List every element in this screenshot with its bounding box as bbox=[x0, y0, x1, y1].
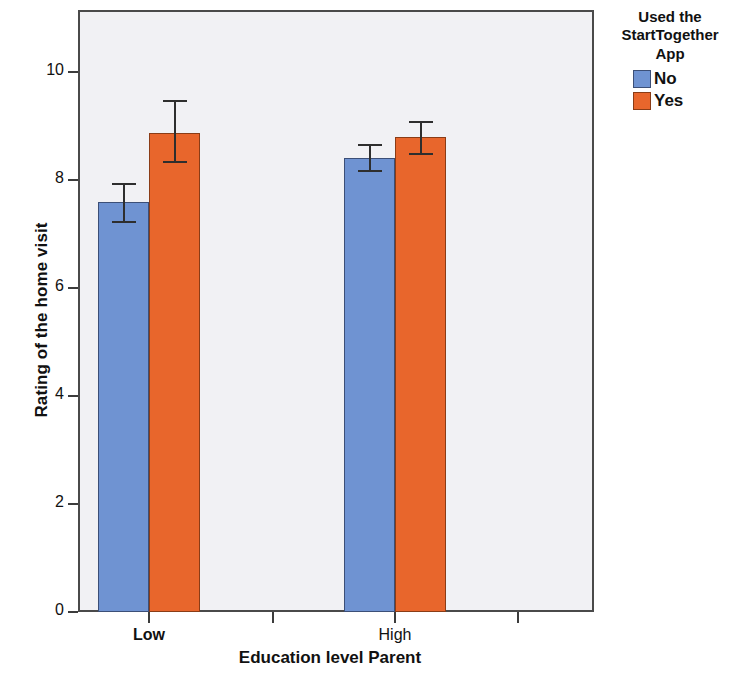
legend-title-line-1: Used the bbox=[600, 8, 740, 26]
error-bar-cap-upper bbox=[163, 100, 187, 102]
y-tick-label: 8 bbox=[18, 169, 64, 187]
x-tick-mark bbox=[272, 612, 274, 623]
error-bar-cap-upper bbox=[112, 183, 136, 185]
bar-chart-figure: Rating of the home visit 1086420 LowHigh… bbox=[0, 0, 745, 680]
y-tick-label: 6 bbox=[18, 277, 64, 295]
bar-high-yes bbox=[395, 137, 446, 612]
error-bar-cap-upper bbox=[358, 144, 382, 146]
error-bar-cap-lower bbox=[163, 161, 187, 163]
legend-item-no[interactable]: No bbox=[633, 70, 740, 88]
y-tick-mark bbox=[68, 287, 78, 289]
legend-swatch-icon bbox=[633, 70, 651, 88]
x-tick-label: Low bbox=[89, 626, 209, 644]
y-axis-title: Rating of the home visit bbox=[32, 160, 52, 480]
y-tick-label: 4 bbox=[18, 385, 64, 403]
y-tick-mark bbox=[68, 503, 78, 505]
y-tick-mark bbox=[68, 71, 78, 73]
error-bar-stem bbox=[174, 100, 176, 161]
x-tick-mark bbox=[517, 612, 519, 623]
error-bar-cap-lower bbox=[112, 221, 136, 223]
x-tick-mark bbox=[148, 612, 150, 623]
error-bar-stem bbox=[369, 144, 371, 170]
y-tick-label: 10 bbox=[18, 61, 64, 79]
error-bar-cap-lower bbox=[409, 153, 433, 155]
y-tick-mark bbox=[68, 179, 78, 181]
error-bar-stem bbox=[123, 183, 125, 221]
y-tick-mark bbox=[68, 395, 78, 397]
legend-item-label: No bbox=[654, 70, 677, 87]
legend-title-line-3: App bbox=[600, 45, 740, 63]
y-tick-label: 0 bbox=[18, 601, 64, 619]
bar-low-no bbox=[98, 202, 149, 612]
x-tick-mark bbox=[394, 612, 396, 623]
error-bar-cap-upper bbox=[409, 121, 433, 123]
legend-item-yes[interactable]: Yes bbox=[633, 92, 740, 110]
error-bar-stem bbox=[420, 121, 422, 153]
legend: Used the StartTogether App NoYes bbox=[600, 8, 740, 114]
legend-title: Used the StartTogether App bbox=[600, 8, 740, 63]
legend-item-label: Yes bbox=[654, 92, 683, 109]
y-tick-mark bbox=[68, 611, 78, 613]
bar-high-no bbox=[344, 158, 395, 612]
x-tick-label: High bbox=[335, 626, 455, 644]
bar-low-yes bbox=[149, 133, 200, 612]
legend-items: NoYes bbox=[600, 70, 740, 110]
error-bar-cap-lower bbox=[358, 170, 382, 172]
legend-swatch-icon bbox=[633, 92, 651, 110]
x-axis-title: Education level Parent bbox=[60, 648, 600, 668]
y-tick-label: 2 bbox=[18, 493, 64, 511]
legend-title-line-2: StartTogether bbox=[600, 26, 740, 44]
